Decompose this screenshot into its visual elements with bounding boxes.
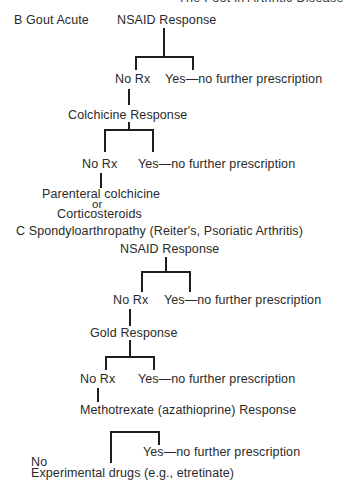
c-gold-response-node: Gold Response [90, 326, 177, 340]
c-gold-no-stem-line [97, 388, 99, 402]
c-gold-branch-bar [105, 356, 155, 358]
c-gold-no-branch: No Rx [80, 372, 115, 386]
c-gold-yes-branch: Yes—no further prescription [138, 372, 295, 386]
b-nsaid-no-branch: No Rx [115, 72, 150, 86]
c-gold-no-drop [105, 356, 107, 370]
b-colchicine-response-node: Colchicine Response [68, 108, 187, 122]
b-colchicine-no-branch: No Rx [82, 157, 117, 171]
section-b-label: B Gout Acute [14, 13, 89, 27]
c-nsaid-no-drop [141, 271, 143, 292]
b-colchicine-no-stem-line [100, 173, 102, 188]
b-colchicine-yes-drop [152, 129, 154, 152]
c-methotrexate-branch-bar [110, 431, 160, 433]
c-nsaid-yes-drop [189, 271, 191, 292]
c-nsaid-branch-bar [141, 271, 191, 273]
b-colchicine-no-drop [104, 129, 106, 152]
c-gold-stem-line [129, 340, 131, 357]
b-nsaid-stem-line [163, 28, 165, 57]
c-nsaid-yes-branch: Yes—no further prescription [164, 293, 321, 307]
c-final-experimental-drugs: Experimental drugs (e.g., etretinate) [31, 466, 234, 480]
c-nsaid-no-branch: No Rx [113, 293, 148, 307]
b-nsaid-no-drop [135, 56, 137, 70]
b-nsaid-yes-drop [192, 56, 194, 70]
c-nsaid-no-stem-line [129, 309, 131, 326]
b-nsaid-branch-bar [135, 56, 194, 58]
b-nsaid-no-stem-line [128, 89, 130, 105]
c-methotrexate-no-drop [110, 431, 112, 463]
c-nsaid-stem-line [165, 257, 167, 272]
section-c-label: C Spondyloarthropathy (Reiter's, Psoriat… [16, 224, 303, 238]
b-nsaid-yes-branch: Yes—no further prescription [165, 72, 322, 86]
c-gold-yes-drop [153, 356, 155, 370]
c-methotrexate-yes-branch: Yes—no further prescription [143, 445, 300, 459]
c-nsaid-response-node: NSAID Response [120, 242, 219, 256]
running-header: The Foot in Arthritic Disease [178, 0, 344, 5]
b-nsaid-response-node: NSAID Response [117, 13, 216, 27]
b-colchicine-branch-bar [104, 129, 154, 131]
b-final-corticosteroids: Corticosteroids [57, 207, 142, 221]
b-colchicine-yes-branch: Yes—no further prescription [138, 157, 295, 171]
c-methotrexate-yes-drop [158, 431, 160, 445]
c-methotrexate-response-node: Methotrexate (azathioprine) Response [80, 403, 296, 417]
